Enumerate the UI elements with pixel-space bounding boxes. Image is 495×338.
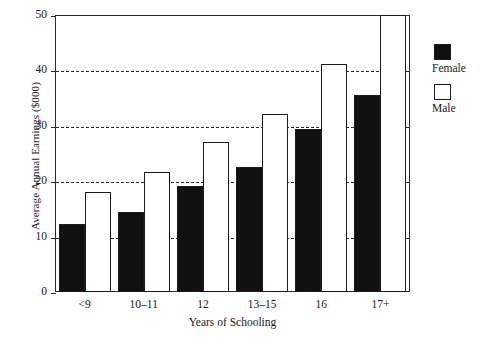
x-axis-tick-label: 12 (173, 298, 232, 310)
x-axis-tick-label: 13–15 (233, 298, 292, 310)
x-axis-tick-label: 16 (292, 298, 351, 310)
bar-female-3 (236, 167, 262, 292)
legend-item-female: Female (432, 44, 492, 75)
legend-swatch-female-icon (434, 44, 451, 60)
bar-male-4 (321, 64, 347, 292)
y-axis-tick-label: 40 (17, 64, 47, 76)
y-axis-tick-label: 50 (17, 9, 47, 21)
x-axis-tick-label: 17+ (351, 298, 410, 310)
bar-male-0 (85, 192, 111, 292)
legend-label-male: Male (432, 102, 492, 115)
bar-female-1 (118, 212, 144, 292)
bar-chart: Average Annual Earnings ($000) 010203040… (0, 0, 495, 338)
bar-male-2 (203, 142, 229, 292)
legend: Female Male (432, 44, 492, 123)
bar-female-5 (354, 95, 380, 292)
x-axis-tick-label: 10–11 (114, 298, 173, 310)
y-axis-tick-label: 30 (17, 120, 47, 132)
x-axis-tick-label: <9 (55, 298, 114, 310)
y-axis-tick (51, 293, 56, 294)
y-axis-tick-label: 10 (17, 231, 47, 243)
y-axis-tick-label: 20 (17, 175, 47, 187)
bar-male-1 (144, 172, 170, 292)
bar-male-5 (380, 15, 406, 292)
legend-swatch-male-icon (434, 84, 451, 100)
y-axis-tick-label: 0 (17, 286, 47, 298)
bar-male-3 (262, 114, 288, 292)
bar-female-2 (177, 186, 203, 292)
bar-female-0 (59, 224, 85, 292)
x-axis-title: Years of Schooling (55, 316, 410, 328)
bar-female-4 (295, 129, 321, 292)
legend-item-male: Male (432, 84, 492, 115)
legend-label-female: Female (432, 62, 492, 75)
bars-layer (55, 15, 410, 292)
